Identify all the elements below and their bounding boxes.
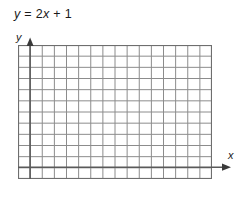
equation-caption: y = 2x + 1: [14, 7, 72, 21]
x-axis-label: x: [228, 150, 234, 161]
equation-coefficient: 2: [36, 7, 43, 21]
grid: [18, 45, 212, 179]
arrow-right-icon: [222, 164, 231, 171]
figure-canvas: y = 2x + 1 y x: [0, 0, 247, 202]
y-axis-label: y: [16, 32, 22, 43]
equation-constant: 1: [65, 7, 72, 21]
equation-equals: =: [21, 7, 36, 21]
plot-area: [18, 45, 212, 179]
equation-plus: +: [50, 7, 65, 21]
